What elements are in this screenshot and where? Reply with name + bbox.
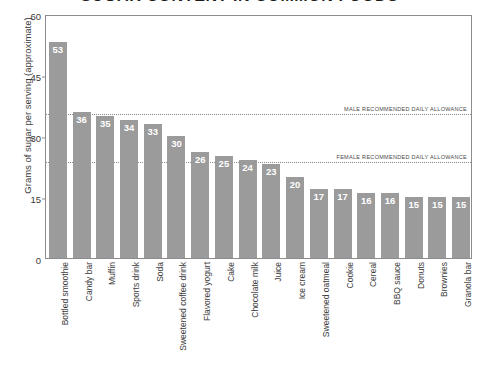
bar-value-label: 24 [239, 162, 257, 173]
bar-value-label: 35 [96, 118, 114, 129]
x-axis-label: Brownies [436, 262, 446, 297]
bar-value-label: 25 [215, 158, 233, 169]
bar-value-label: 34 [120, 122, 138, 133]
bar[interactable]: 33 [144, 124, 162, 258]
x-axis-label: Cake [223, 262, 233, 282]
y-tick-label-45: 45 [3, 72, 41, 83]
x-axis-label: Sweetened oatmeal [318, 262, 328, 337]
x-axis-label: Candy bar [81, 262, 91, 301]
x-axis-label: Bottled smoothie [57, 262, 67, 325]
bar[interactable]: 35 [96, 116, 114, 258]
bar[interactable]: 16 [381, 193, 399, 258]
x-axis-label: Chocolate milk [247, 262, 257, 318]
bar[interactable]: 17 [334, 189, 352, 258]
bar-value-label: 15 [405, 199, 423, 210]
y-tick-label-60: 60 [3, 11, 41, 22]
y-tick-label-15: 15 [3, 194, 41, 205]
bar-value-label: 16 [357, 195, 375, 206]
bar[interactable]: 36 [73, 112, 91, 258]
y-tick-label-0: 0 [3, 255, 41, 266]
plot-area: 015304560 MALE RECOMMENDED DAILY ALLOWAN… [45, 15, 472, 259]
x-axis-label: Donuts [413, 262, 423, 289]
bar-value-label: 36 [73, 114, 91, 125]
x-axis-label: Juice [270, 262, 280, 282]
bar[interactable]: 16 [357, 193, 375, 258]
x-axis-label: Sweetened coffee drink [175, 262, 185, 351]
bar-value-label: 17 [334, 191, 352, 202]
bar[interactable]: 23 [262, 164, 280, 258]
bar[interactable]: 15 [452, 197, 470, 258]
bar-value-label: 53 [49, 44, 67, 55]
bar-value-label: 17 [310, 191, 328, 202]
bar[interactable]: 26 [191, 152, 209, 258]
bar[interactable]: 24 [239, 160, 257, 258]
bars-layer: 533635343330262524232017171616151515 [46, 16, 471, 258]
x-axis-label: Sports drink [128, 262, 138, 307]
bar[interactable]: 53 [49, 42, 67, 258]
bar[interactable]: 20 [286, 177, 304, 258]
x-axis-label: Cereal [365, 262, 375, 287]
bar-value-label: 26 [191, 154, 209, 165]
x-axis-labels: Bottled smoothieCandy barMuffinSports dr… [45, 262, 472, 367]
x-axis-label: Muffin [104, 262, 114, 285]
y-tick-label-30: 30 [3, 133, 41, 144]
x-axis-label: Granola bar [460, 262, 470, 307]
sugar-content-bar-chart: SUGAR CONTENT IN COMMON FOODS Grams of s… [0, 0, 479, 367]
bar-value-label: 23 [262, 166, 280, 177]
bar[interactable]: 34 [120, 120, 138, 258]
bar-value-label: 15 [428, 199, 446, 210]
bar-value-label: 33 [144, 126, 162, 137]
x-axis-label: Cookie [342, 262, 352, 288]
x-axis-label: BBQ sauce [389, 262, 399, 305]
x-axis-label: Ice cream [294, 262, 304, 299]
bar[interactable]: 17 [310, 189, 328, 258]
x-axis-label: Soda [152, 262, 162, 282]
bar[interactable]: 15 [428, 197, 446, 258]
bar-value-label: 15 [452, 199, 470, 210]
bar[interactable]: 25 [215, 156, 233, 258]
bar[interactable]: 30 [167, 136, 185, 258]
bar-value-label: 30 [167, 138, 185, 149]
x-axis-label: Flavored yogurt [199, 262, 209, 321]
chart-title: SUGAR CONTENT IN COMMON FOODS [0, 0, 479, 5]
bar-value-label: 16 [381, 195, 399, 206]
bar[interactable]: 15 [405, 197, 423, 258]
bar-value-label: 20 [286, 179, 304, 190]
